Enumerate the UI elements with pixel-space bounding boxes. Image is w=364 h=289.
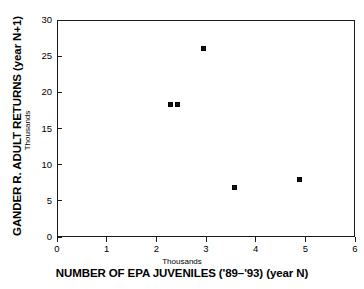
data-point [168, 102, 173, 107]
x-tick-mark [156, 237, 157, 242]
x-tick-mark [255, 237, 256, 242]
y-tick-label: 10 [30, 160, 52, 170]
y-tick-label: 5 [30, 196, 52, 206]
data-point [175, 102, 180, 107]
x-axis-title: NUMBER OF EPA JUVENILES ('89–'93) (year … [0, 267, 364, 279]
plot-area [57, 20, 355, 237]
y-tick-label: 0 [30, 232, 52, 242]
y-tick-mark [57, 56, 62, 57]
data-point [201, 46, 206, 51]
y-tick-mark [57, 164, 62, 165]
y-tick-mark [57, 128, 62, 129]
y-tick-mark [57, 200, 62, 201]
y-tick-label: 15 [30, 124, 52, 134]
x-tick-label: 0 [47, 243, 67, 254]
x-tick-label: 2 [146, 243, 166, 254]
x-tick-mark [57, 237, 58, 242]
x-tick-mark [206, 237, 207, 242]
x-tick-label: 5 [295, 243, 315, 254]
y-tick-mark [57, 20, 62, 21]
x-axis-units-label: Thousands [0, 257, 364, 266]
x-tick-mark [355, 237, 356, 242]
scatter-chart-figure: GANDER R. ADULT RETURNS (year N+1) Thous… [0, 0, 364, 289]
x-tick-label: 1 [97, 243, 117, 254]
y-tick-mark [57, 237, 62, 238]
x-tick-mark [305, 237, 306, 242]
y-tick-mark [57, 92, 62, 93]
data-point [297, 177, 302, 182]
y-axis-title: GANDER R. ADULT RETURNS (year N+1) [11, 6, 23, 246]
y-tick-label: 30 [30, 15, 52, 25]
y-tick-label: 20 [30, 87, 52, 97]
data-point [232, 185, 237, 190]
x-tick-mark [106, 237, 107, 242]
x-tick-label: 6 [345, 243, 364, 254]
x-tick-label: 3 [196, 243, 216, 254]
x-tick-label: 4 [246, 243, 266, 254]
y-tick-label: 25 [30, 51, 52, 61]
